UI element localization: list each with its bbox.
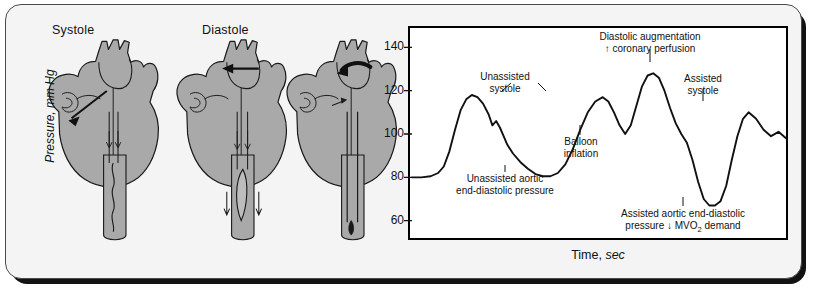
annotation-line-2: inflation [546,148,616,160]
annotation-line-2: end-diastolic pressure [430,185,580,197]
annotation-diastolic-augmentation: Diastolic augmentation ↑ coronary perfus… [562,31,738,54]
x-axis-unit: sec [605,248,624,262]
annotation-line-1: Assisted [670,73,736,85]
y-tick-label-120: 120 [370,83,404,97]
x-axis-title: Time, sec [518,248,678,262]
figure-page: Systole Diastole 140 120 100 80 60 P [0,0,814,295]
annotation-line-2: systole [466,83,544,95]
annotation-mvo2-pre: pressure ↓ MVO [625,220,697,231]
annotation-unassisted-aortic-edp: Unassisted aortic end-diastolic pressure [430,173,580,196]
annotation-mvo2-post: demand [702,220,741,231]
x-axis-title-text: Time, sec [571,248,625,262]
y-axis-title: Pressure, mm Hg [43,56,57,176]
annotation-line-1: Diastolic augmentation [562,31,738,43]
annotation-line-1: Unassisted aortic [430,173,580,185]
y-tick-label-140: 140 [370,39,404,53]
annotation-assisted-systole: Assisted systole [670,73,736,96]
annotation-balloon-inflation: Balloon inflation [546,136,616,159]
annotation-line-1: Balloon [546,136,616,148]
annotation-line-1: Assisted aortic end-diastolic [590,208,776,220]
annotation-line-1: Unassisted [466,71,544,83]
annotation-line-2: systole [670,85,736,97]
y-tick-label-60: 60 [370,213,404,227]
figure-card: Systole Diastole 140 120 100 80 60 P [5,4,802,279]
annotation-assisted-aortic-edp: Assisted aortic end-diastolic pressure ↓… [590,208,776,235]
annotation-line-2: pressure ↓ MVO2 demand [590,220,776,236]
y-tick-label-80: 80 [370,169,404,183]
annotation-line-2: ↑ coronary perfusion [562,43,738,55]
y-tick-label-100: 100 [370,126,404,140]
annotation-unassisted-systole: Unassisted systole [466,71,544,94]
